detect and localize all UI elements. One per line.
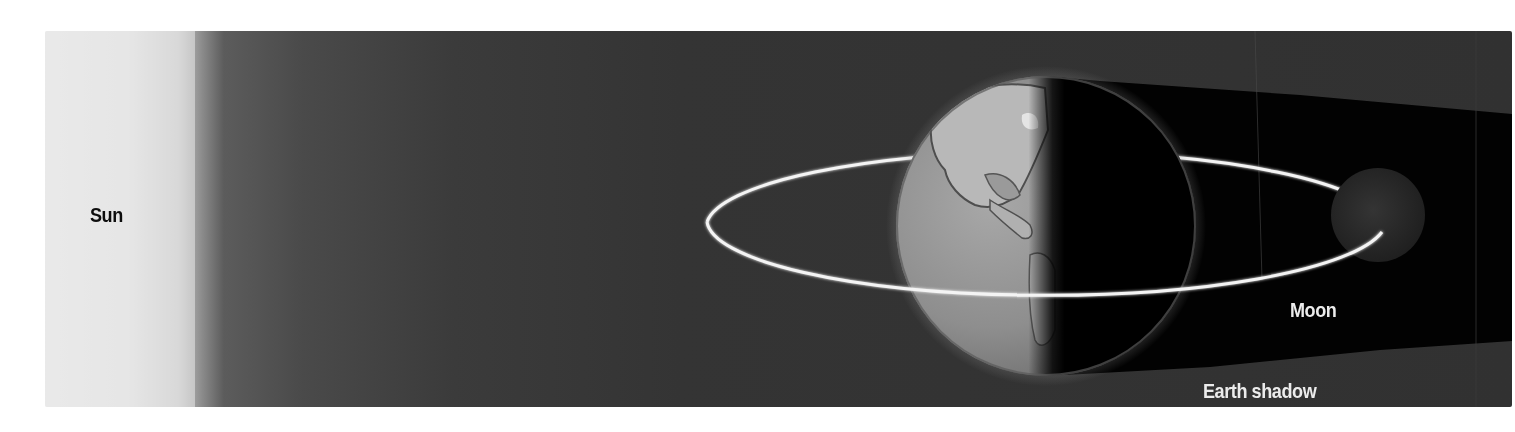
moon [1331,168,1425,262]
earth [896,76,1196,376]
moon-label: Moon [1290,299,1336,320]
earth-shadow-label: Earth shadow [1203,380,1316,401]
sun-label: Sun [90,204,123,225]
eclipse-diagram [0,0,1515,432]
